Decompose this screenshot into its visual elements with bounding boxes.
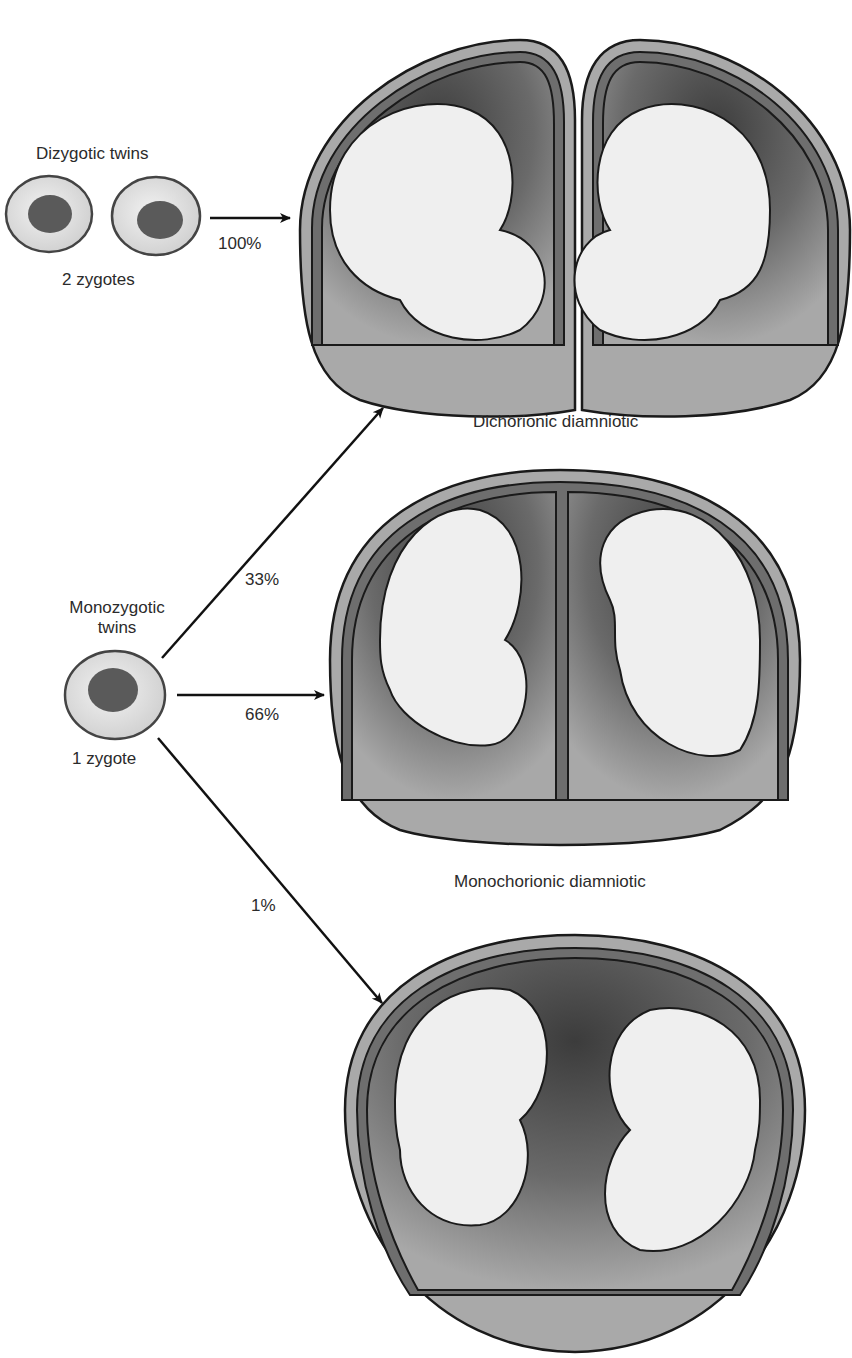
- monozygotic-zygote-label: 1 zygote: [72, 749, 136, 769]
- monochorionic-monoamniotic-illustration: [345, 935, 805, 1352]
- monozygotic-arrow-66-percent: 66%: [245, 705, 279, 725]
- dizygotic-twins-title: Dizygotic twins: [36, 144, 148, 164]
- monozygotic-arrow-33-percent: 33%: [245, 570, 279, 590]
- dichorionic-diamniotic-caption: Dichorionic diamniotic: [473, 412, 638, 432]
- twin-diagram-canvas: [0, 0, 852, 1358]
- dizygotic-zygote-1: [6, 176, 92, 252]
- dizygotic-arrow-percent: 100%: [218, 234, 261, 254]
- monochorionic-diamniotic-caption: Monochorionic diamniotic: [454, 872, 646, 892]
- dizygotic-zygote-2: [112, 177, 200, 255]
- monozygotic-arrow-1-percent: 1%: [251, 896, 276, 916]
- dichorionic-diamniotic-illustration: [300, 40, 850, 417]
- monozygotic-title-line1: Monozygotic: [69, 598, 164, 617]
- monozygotic-zygote: [65, 651, 165, 739]
- monochorionic-diamniotic-illustration: [330, 470, 800, 845]
- monozygotic-title-line2: twins: [98, 618, 137, 637]
- dizygotic-zygote-label: 2 zygotes: [62, 270, 135, 290]
- monozygotic-twins-title: Monozygotic twins: [52, 598, 182, 637]
